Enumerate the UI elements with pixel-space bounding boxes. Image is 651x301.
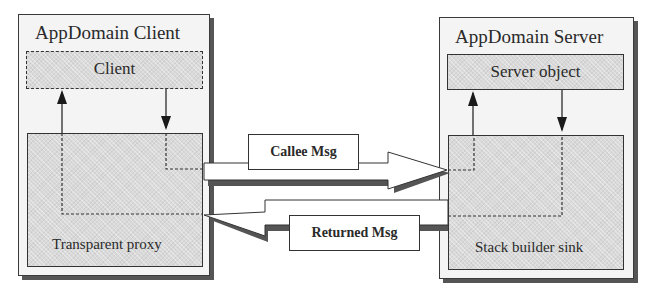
returned-msg-label: Returned Msg bbox=[289, 215, 420, 251]
client-call-arrow bbox=[161, 89, 171, 130]
server-call-arrow bbox=[557, 90, 567, 132]
sink-call-path bbox=[448, 135, 474, 170]
server-return-arrow bbox=[468, 91, 478, 135]
callee-msg-label: Callee Msg bbox=[248, 134, 359, 170]
proxy-return-path bbox=[62, 133, 203, 214]
sink-return-path bbox=[448, 135, 562, 216]
proxy-call-path bbox=[166, 133, 203, 169]
client-return-arrow bbox=[57, 90, 67, 133]
